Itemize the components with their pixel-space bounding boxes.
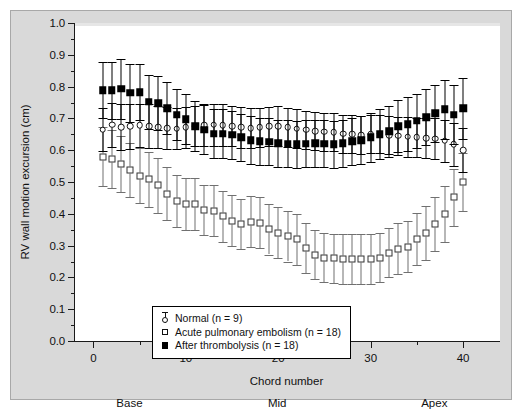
y-tick-label: 0.9	[50, 49, 65, 61]
error-bar-cap	[375, 109, 384, 110]
y-tick-minor	[71, 103, 75, 104]
error-bar-cap	[459, 78, 468, 79]
error-bar-cap	[311, 230, 320, 231]
error-bar-cap	[107, 119, 116, 120]
error-bar-cap	[431, 197, 440, 198]
error-bar-cap	[301, 273, 310, 274]
error-bar-cap	[107, 188, 116, 189]
legend-key-ape	[160, 326, 175, 339]
error-bar-cap	[449, 144, 458, 145]
error-bar-cap	[154, 130, 163, 131]
data-point-marker	[358, 136, 366, 144]
error-bar-cap	[218, 109, 227, 110]
error-bar-cap	[209, 109, 218, 110]
error-bar-cap	[394, 274, 403, 275]
error-bar-cap	[255, 118, 264, 119]
y-tick	[68, 87, 75, 88]
error-bar-cap	[449, 85, 458, 86]
error-bar-cap	[172, 227, 181, 228]
error-bar-cap	[218, 104, 227, 105]
data-point-marker	[173, 111, 181, 119]
error-bar-cap	[311, 120, 320, 121]
data-point-marker	[109, 121, 116, 128]
error-bar-cap	[292, 214, 301, 215]
error-bar-cap	[255, 197, 264, 198]
data-point-marker	[459, 104, 467, 112]
figure-panel: 0.00.10.20.30.40.50.60.70.80.91.00102030…	[10, 10, 512, 400]
error-bar-cap	[255, 248, 264, 249]
error-bar-cap	[126, 197, 135, 198]
legend-key-thrombolysis	[160, 339, 175, 352]
error-bar-cap	[246, 247, 255, 248]
error-bar-cap	[394, 155, 403, 156]
x-tick-label: 30	[364, 352, 377, 364]
error-bar-cap	[154, 76, 163, 77]
error-bar-cap	[357, 234, 366, 235]
error-bar-cap	[163, 134, 172, 135]
data-point-marker	[192, 201, 199, 208]
data-point-marker	[293, 141, 301, 149]
error-bar-cap	[412, 213, 421, 214]
error-bar-cap	[209, 185, 218, 186]
error-bar-cap	[200, 105, 209, 106]
error-bar-cap	[228, 159, 237, 160]
error-bar-cap	[440, 139, 449, 140]
data-point-marker	[117, 85, 125, 93]
data-point-marker	[127, 123, 134, 130]
data-point-marker	[201, 126, 209, 134]
error-bar-cap	[98, 62, 107, 63]
error-bar-cap	[459, 172, 468, 173]
data-point-marker	[238, 220, 245, 227]
error-bar-cap	[163, 167, 172, 168]
data-point-marker	[432, 220, 439, 227]
error-bar-cap	[274, 207, 283, 208]
data-point-marker	[385, 127, 393, 135]
data-point-marker	[460, 147, 467, 154]
region-label: Base	[116, 397, 142, 409]
data-point-marker	[256, 138, 264, 146]
data-point-marker	[284, 233, 291, 240]
error-bar-cap	[412, 157, 421, 158]
y-tick-label: 0.1	[50, 303, 65, 315]
data-point-marker	[210, 130, 218, 138]
error-bar-cap	[283, 211, 292, 212]
y-tick-minor	[71, 325, 75, 326]
y-tick-label: 0.6	[50, 144, 65, 156]
error-bar-cap	[135, 148, 144, 149]
plot-area: 0.00.10.20.30.40.50.60.70.80.91.00102030…	[74, 23, 500, 342]
data-point-marker	[136, 122, 143, 129]
data-point-marker	[311, 139, 319, 147]
error-bar-cap	[200, 185, 209, 186]
data-point-marker	[136, 89, 144, 97]
data-point-marker	[422, 113, 430, 121]
error-bar-cap	[375, 282, 384, 283]
error-bar-cap	[440, 162, 449, 163]
error-bar-cap	[394, 100, 403, 101]
data-point-marker	[376, 254, 383, 261]
error-bar-cap	[228, 106, 237, 107]
error-bar-cap	[246, 196, 255, 197]
error-bar-cap	[348, 165, 357, 166]
error-bar-cap	[422, 145, 431, 146]
error-bar-cap	[126, 149, 135, 150]
data-point-marker	[164, 190, 171, 197]
data-point-marker	[395, 122, 403, 130]
data-point-marker	[404, 243, 411, 250]
data-point-marker	[99, 153, 106, 160]
error-bar-cap	[181, 94, 190, 95]
data-point-marker	[108, 87, 116, 95]
error-bar-cap	[172, 140, 181, 141]
data-point-marker	[210, 207, 217, 214]
error-bar-cap	[375, 159, 384, 160]
data-marks-layer	[75, 23, 500, 341]
error-bar-cap	[366, 284, 375, 285]
data-point-marker	[330, 141, 338, 149]
y-tick-minor	[71, 134, 75, 135]
error-bar-cap	[394, 152, 403, 153]
legend-key-normal	[160, 312, 175, 325]
error-bar-cap	[301, 167, 310, 168]
error-bar-cap	[144, 207, 153, 208]
error-bar-cap	[255, 165, 264, 166]
legend-label: Normal (n = 9)	[175, 312, 242, 326]
data-point-marker	[321, 254, 328, 261]
